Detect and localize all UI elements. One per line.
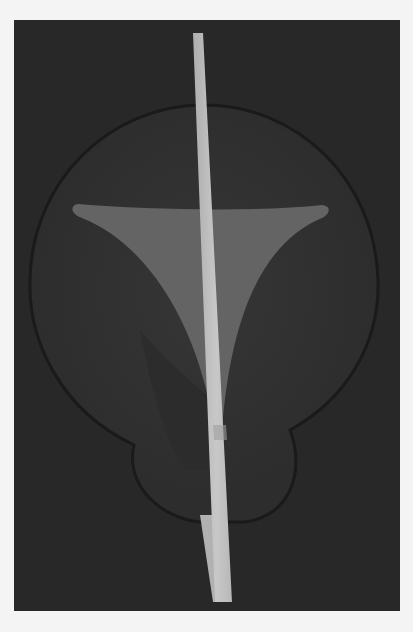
abstract-render	[0, 0, 413, 632]
grain-overlay	[14, 20, 400, 611]
